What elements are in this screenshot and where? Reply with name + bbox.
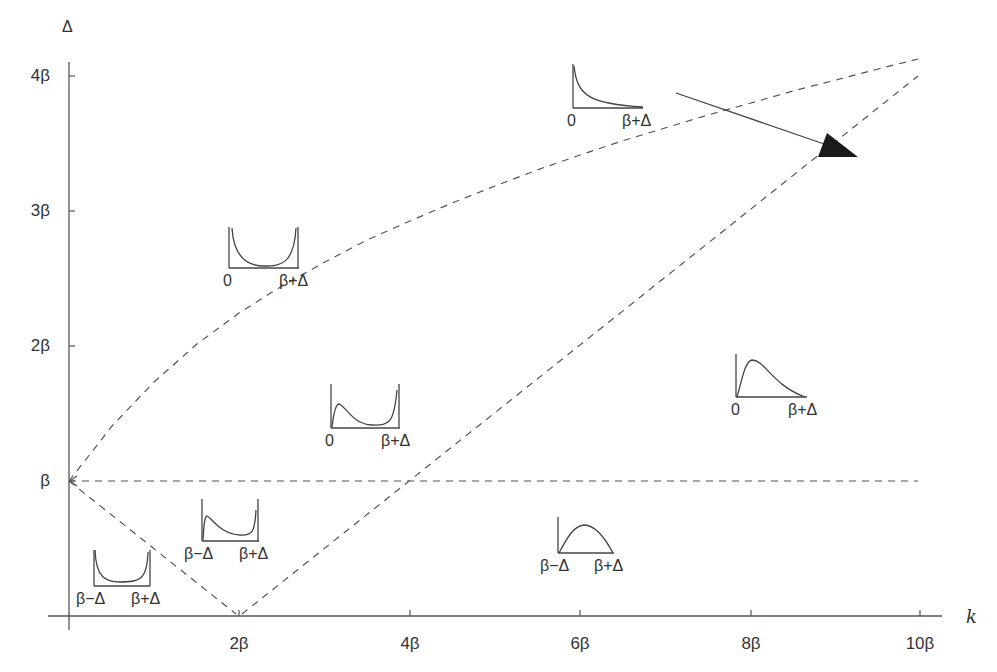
inset-label-left: 0: [731, 401, 740, 419]
inset-u-shape-lower: [94, 550, 150, 586]
y-tick-label: 2β: [10, 336, 50, 356]
inset-skewed-hump: [736, 354, 807, 397]
inset-label-left: 0: [567, 112, 576, 130]
y-tick-label: 4β: [10, 66, 50, 86]
inset-label-left: 0: [223, 272, 232, 290]
annotation-arrow-shaft: [676, 93, 830, 146]
inset-hump: [558, 517, 614, 553]
x-axis-label: k: [966, 606, 977, 627]
inset-label-left: β−Δ: [540, 557, 569, 575]
inset-peak-diverge-lower: [202, 499, 259, 541]
inset-label-right: β+Δ: [239, 545, 268, 563]
x-tick-label: 8β: [721, 634, 781, 654]
inset-label-right: β+Δ: [622, 112, 651, 130]
phase-diagram: [0, 0, 997, 672]
annotation-arrowhead: [818, 133, 858, 157]
y-ticks: [69, 76, 75, 481]
x-ticks: [239, 610, 920, 616]
y-axis-label: Δ: [62, 18, 73, 36]
inset-label-right: β+Δ: [131, 590, 160, 608]
y-tick-label: β: [10, 471, 50, 491]
inset-label-left: β−Δ: [184, 545, 213, 563]
y-tick-label: 3β: [10, 201, 50, 221]
x-tick-label: 4β: [380, 634, 440, 654]
inset-label-right: β+Δ: [788, 401, 817, 419]
x-tick-label: 2β: [209, 634, 269, 654]
inset-label-left: β−Δ: [76, 590, 105, 608]
inset-peak-diverge-middle: [331, 384, 400, 428]
inset-decaying: [573, 64, 643, 108]
inset-label-right: β+Δ: [279, 272, 308, 290]
inset-label-right: β+Δ: [381, 432, 410, 450]
inset-label-left: 0: [325, 432, 334, 450]
x-tick-label: 6β: [550, 634, 610, 654]
boundary-ascending: [242, 76, 918, 614]
x-tick-label: 10β: [890, 634, 950, 654]
inset-label-right: β+Δ: [594, 557, 623, 575]
inset-u-shape-upper: [229, 227, 299, 268]
